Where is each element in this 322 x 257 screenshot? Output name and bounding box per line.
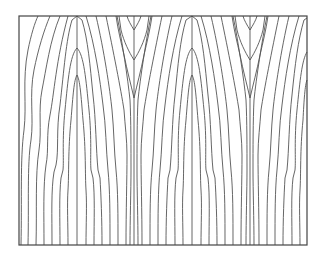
contour-plot xyxy=(0,0,322,257)
contour-diagram xyxy=(0,0,322,257)
